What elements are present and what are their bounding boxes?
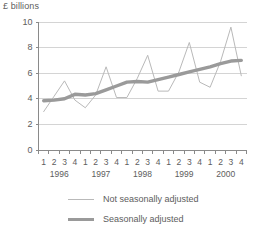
legend-item-not-seasonally-adjusted: Not seasonally adjusted [68, 192, 199, 206]
x-axis-year-label: 1999 [164, 170, 204, 179]
y-axis-tick-label: 6 [15, 69, 33, 78]
legend-swatch-thin-line-icon [68, 199, 94, 200]
x-axis-ticks [39, 150, 247, 154]
x-axis-year-label: 2000 [206, 170, 246, 179]
x-axis-year-label: 1998 [123, 170, 163, 179]
x-axis-year-label: 1996 [39, 170, 79, 179]
axis-lines [39, 22, 247, 150]
x-axis-year-label: 1997 [81, 170, 121, 179]
chart-legend: Not seasonally adjusted Seasonally adjus… [0, 192, 254, 237]
chart-container: £ billions 0246810 12341234123412341234 … [0, 0, 254, 237]
y-axis-tick-label: 10 [15, 18, 33, 27]
x-axis-quarter-label: 4 [235, 158, 247, 167]
y-axis-tick-label: 2 [15, 120, 33, 129]
y-axis-tick-label: 0 [15, 146, 33, 155]
legend-swatch-thick-line-icon [68, 218, 94, 221]
gridlines [39, 22, 247, 150]
y-axis-tick-label: 8 [15, 43, 33, 52]
legend-label: Not seasonally adjusted [103, 194, 199, 204]
legend-label: Seasonally adjusted [103, 214, 184, 224]
y-axis-tick-label: 4 [15, 94, 33, 103]
legend-item-seasonally-adjusted: Seasonally adjusted [68, 212, 184, 226]
